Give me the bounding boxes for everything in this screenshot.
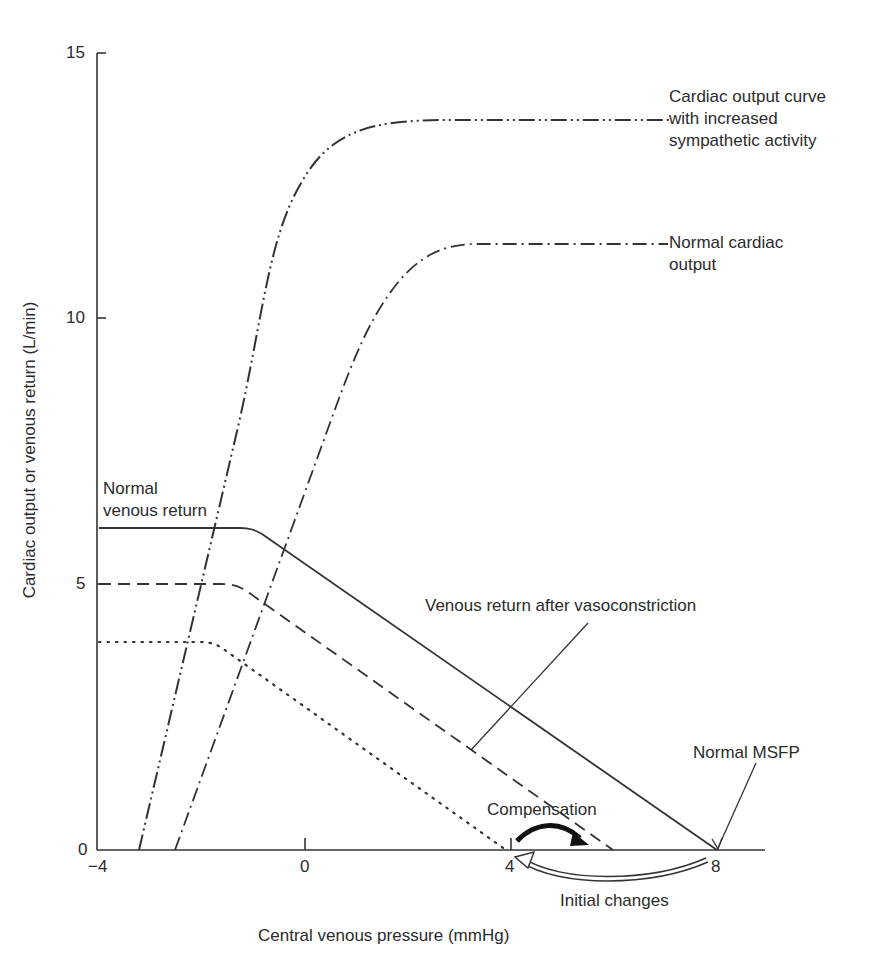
msfp-leader-line xyxy=(718,763,756,848)
y-axis-title: Cardiac output or venous return (L/min) xyxy=(20,300,40,600)
y-tick-label-15: 15 xyxy=(66,43,85,63)
y-tick-label-10: 10 xyxy=(66,308,85,328)
label-symp-line2: with increased xyxy=(669,108,778,129)
x-tick-label-8: 8 xyxy=(711,857,720,877)
axes xyxy=(97,53,765,850)
vaso-leader-line xyxy=(471,623,588,750)
y-tick-label-5: 5 xyxy=(76,574,85,594)
y-tick-label-0: 0 xyxy=(78,840,87,860)
label-nvr-line1: Normal xyxy=(103,478,158,499)
label-nvr-line2: venous return xyxy=(103,500,207,521)
series-co-sympathetic xyxy=(139,120,670,850)
series-vr-dotted xyxy=(99,642,506,850)
series-vr-normal xyxy=(99,528,717,850)
x-tick-label-0: 0 xyxy=(300,857,309,877)
label-normal-co-line1: Normal cardiac xyxy=(669,232,783,253)
x-tick-label-4: 4 xyxy=(505,857,514,877)
label-vasoconstriction: Venous return after vasoconstriction xyxy=(425,595,696,616)
x-axis-title: Central venous pressure (mmHg) xyxy=(258,925,509,946)
label-normal-co-line2: output xyxy=(669,254,716,275)
initial-changes-arrow-icon xyxy=(515,852,707,879)
label-msfp: Normal MSFP xyxy=(693,742,800,763)
label-compensation: Compensation xyxy=(487,799,597,820)
label-symp-line3: sympathetic activity xyxy=(669,130,816,151)
label-symp-line1: Cardiac output curve xyxy=(669,86,826,107)
label-initial-changes: Initial changes xyxy=(560,890,669,911)
series-co-normal xyxy=(175,244,668,850)
x-tick-label-neg4: −4 xyxy=(88,857,107,877)
compensation-arrow-icon xyxy=(517,826,589,846)
